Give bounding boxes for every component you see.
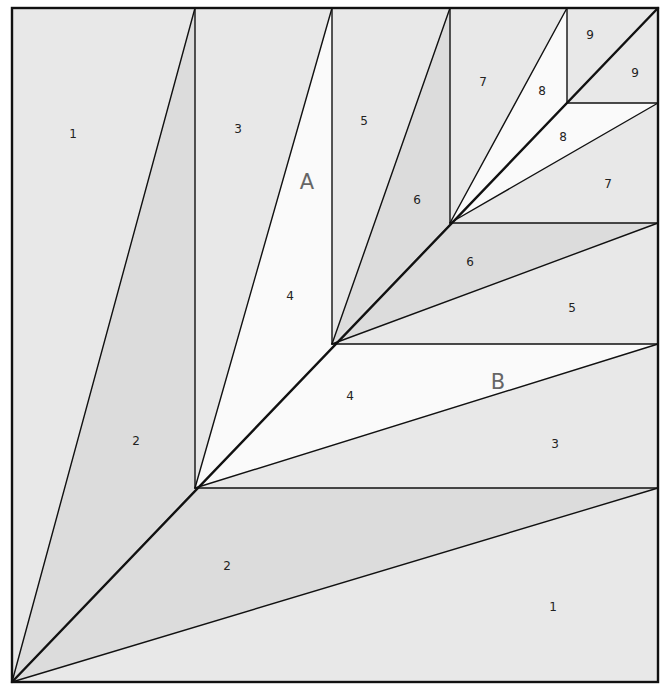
quilt-block-diagram [0, 0, 661, 691]
